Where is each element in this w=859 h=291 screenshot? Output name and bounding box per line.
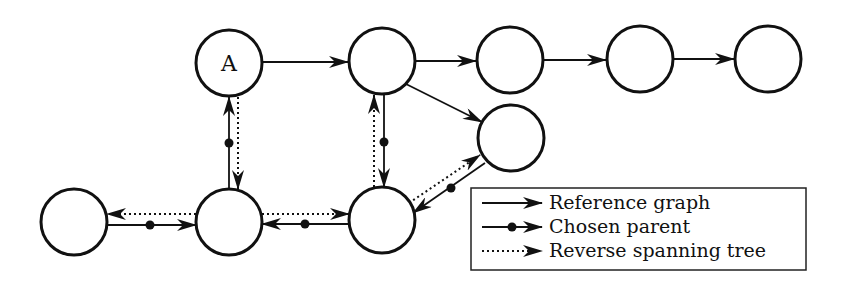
node-P	[478, 105, 544, 171]
node-L	[41, 189, 107, 255]
node-M	[196, 189, 262, 255]
parent-dot	[301, 220, 310, 229]
legend-dot-icon	[508, 223, 517, 232]
edge-N-P	[409, 155, 480, 203]
node-E	[735, 26, 801, 92]
parent-dot	[380, 138, 389, 147]
node-B	[349, 28, 415, 94]
parent-dot	[225, 139, 234, 148]
chosen-parent-edges	[107, 95, 485, 230]
legend-label-reverse-tree: Reverse spanning tree	[549, 239, 766, 261]
legend: Reference graph Chosen parent Reverse sp…	[471, 188, 806, 270]
legend-label-chosen-parent: Chosen parent	[549, 215, 691, 237]
node-D	[607, 26, 673, 92]
legend-label-reference: Reference graph	[549, 191, 710, 213]
node-C	[477, 27, 543, 93]
parent-dot	[146, 221, 155, 230]
node-label-A: A	[220, 51, 238, 76]
edge-B-P	[406, 84, 482, 122]
reverse-spanning-tree-edges	[107, 95, 480, 214]
parent-dot	[447, 184, 456, 193]
spanning-tree-diagram: A Reference graph Chosen parent Reverse …	[0, 0, 859, 291]
node-N	[349, 187, 415, 253]
